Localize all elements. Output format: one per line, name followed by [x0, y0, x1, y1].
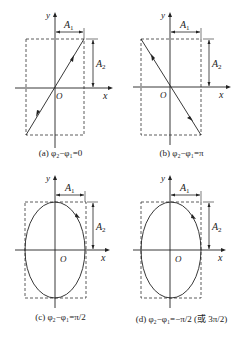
x-axis-arrow-icon — [105, 248, 110, 252]
caption-a: (a) φ₂−φ₁=0 — [0, 148, 121, 158]
y-axis-arrow-icon — [168, 12, 172, 17]
a2-label: A2 — [211, 58, 222, 71]
a2-label: A2 — [95, 58, 106, 71]
y-label: y — [45, 10, 50, 20]
x-label: x — [218, 89, 224, 100]
a1-label: A1 — [64, 182, 75, 195]
panel-d: A1 A2 O x y (d) φ₂−φ₁=−π/2 (或 3π/2) — [121, 170, 242, 340]
origin-label: O — [160, 90, 167, 100]
a1-label: A1 — [63, 19, 74, 32]
lissajous-diagram-a: A1 A2 O x y — [0, 0, 121, 170]
origin-label: O — [56, 91, 63, 101]
x-label: x — [102, 90, 108, 101]
x-axis-arrow-icon — [108, 86, 113, 90]
y-label: y — [160, 10, 165, 20]
a2-label: A2 — [211, 221, 222, 234]
origin-label: O — [60, 254, 67, 264]
a2-label: A2 — [95, 221, 106, 234]
caption-c: (c) φ₂−φ₁=π/2 — [0, 312, 121, 322]
direction-arrow-icon — [187, 116, 193, 121]
caption-b: (b) φ₂−φ₁=π — [121, 148, 242, 158]
y-axis-arrow-icon — [53, 12, 57, 17]
a1-label: A1 — [179, 19, 190, 32]
a1-label: A1 — [179, 182, 190, 195]
x-label: x — [100, 252, 106, 263]
panel-b: A1 A2 O x y (b) φ₂−φ₁=π — [121, 0, 242, 170]
origin-label: O — [175, 254, 182, 264]
y-axis-arrow-icon — [168, 175, 172, 180]
y-axis-arrow-icon — [53, 175, 57, 180]
caption-d: (d) φ₂−φ₁=−π/2 (或 3π/2) — [121, 312, 242, 325]
y-label: y — [160, 173, 165, 183]
panel-c: A1 A2 O x y (c) φ₂−φ₁=π/2 — [0, 170, 121, 340]
y-label: y — [45, 173, 50, 183]
lissajous-diagram-b: A1 A2 O x y — [121, 0, 242, 170]
panel-a: A1 A2 O x y (a) φ₂−φ₁=0 — [0, 0, 121, 170]
x-label: x — [217, 252, 223, 263]
direction-arrow-icon — [75, 213, 80, 218]
x-axis-arrow-icon — [226, 85, 231, 89]
